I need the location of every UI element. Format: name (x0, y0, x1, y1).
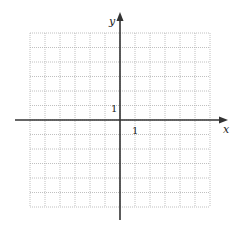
x-axis-label: x (223, 123, 230, 136)
y-axis-arrow-icon (117, 12, 124, 21)
y-tick-label: 1 (111, 103, 117, 114)
x-tick-label: 1 (132, 125, 138, 136)
coordinate-plane: y x 1 1 (0, 0, 236, 225)
y-axis-label: y (108, 15, 116, 28)
